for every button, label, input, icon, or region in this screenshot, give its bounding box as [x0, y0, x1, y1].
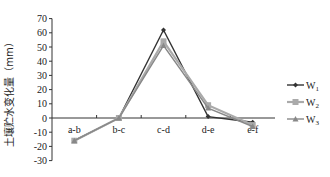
y-tick-label: -20 [34, 141, 47, 152]
x-axis: a-bb-cc-dd-ee-f [52, 115, 275, 135]
svg-text:W3: W3 [306, 114, 319, 127]
x-tick-label: a-b [68, 124, 81, 135]
y-tick-label: 0 [42, 113, 47, 124]
x-tick-label: c-d [157, 124, 170, 135]
y-tick-label: 70 [37, 13, 47, 24]
y-axis: 706050403020100-10-20-30 [34, 13, 52, 166]
y-tick-label: -30 [34, 155, 47, 166]
y-tick-label: 20 [37, 84, 47, 95]
legend-item-w2: W2 [287, 97, 319, 110]
y-tick-label: -10 [34, 127, 47, 138]
x-tick-label: b-c [113, 124, 126, 135]
y-axis-label: 土壤贮水变化量（mm） [3, 37, 15, 146]
svg-text:W2: W2 [306, 97, 319, 110]
y-tick-label: 60 [37, 27, 47, 38]
y-tick-label: 10 [37, 98, 47, 109]
svg-text:W1: W1 [306, 80, 319, 93]
y-tick-label: 50 [37, 42, 47, 53]
line-chart: 706050403020100-10-20-30 a-bb-cc-dd-ee-f… [0, 0, 330, 177]
legend-item-w3: W3 [287, 114, 319, 127]
y-tick-label: 40 [37, 56, 47, 67]
legend: W1W2W3 [287, 80, 319, 127]
y-tick-label: 30 [37, 70, 47, 81]
x-tick-label: d-e [202, 124, 215, 135]
legend-item-w1: W1 [287, 80, 319, 93]
